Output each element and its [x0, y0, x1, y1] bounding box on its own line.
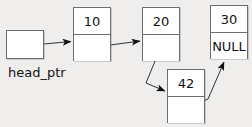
node-10-data-cell: 10 — [74, 8, 110, 35]
list-node-20[interactable]: 20 — [142, 7, 180, 61]
node-10-link-cell — [74, 35, 110, 61]
node-42-data-cell: 42 — [168, 70, 204, 97]
node-30-data-cell: 30 — [211, 6, 247, 33]
head-pointer-label: head_ptr — [8, 66, 66, 79]
head-pointer-link-cell — [7, 31, 43, 58]
list-node-30[interactable]: 30 NULL — [210, 5, 248, 59]
diagram-canvas: head_ptr 10 20 42 30 NULL — [0, 0, 252, 127]
node-30-null-cell: NULL — [211, 33, 247, 59]
list-node-10[interactable]: 10 — [73, 7, 111, 61]
node-20-link-cell — [143, 35, 179, 61]
node-20-data-cell: 20 — [143, 8, 179, 35]
node-42-link-cell — [168, 97, 204, 123]
list-node-42[interactable]: 42 — [167, 69, 205, 123]
head-pointer-box[interactable] — [6, 30, 44, 59]
